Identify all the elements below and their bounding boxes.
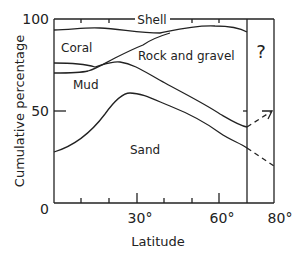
x-axis-title: Latitude — [131, 234, 185, 249]
ytick-0: 0 — [40, 201, 49, 217]
label-shell: Shell — [137, 13, 166, 27]
label-rock-and-gravel: Rock and gravel — [138, 49, 235, 63]
label-mud: Mud — [73, 78, 99, 92]
label-question: ? — [256, 41, 266, 62]
xtick-30: 30° — [128, 210, 153, 226]
xtick-60: 60° — [210, 210, 235, 226]
y-axis-title: Cumulative percentage — [12, 35, 27, 187]
label-sand: Sand — [130, 143, 160, 157]
ytick-50: 50 — [31, 103, 49, 119]
xtick-80: 80° — [268, 210, 293, 226]
label-coral: Coral — [61, 41, 92, 55]
ytick-100: 100 — [22, 11, 49, 27]
sand-boundary-extrapolated — [247, 148, 274, 166]
chart: Shell Coral Rock and gravel Mud Sand ? 1… — [0, 0, 303, 257]
